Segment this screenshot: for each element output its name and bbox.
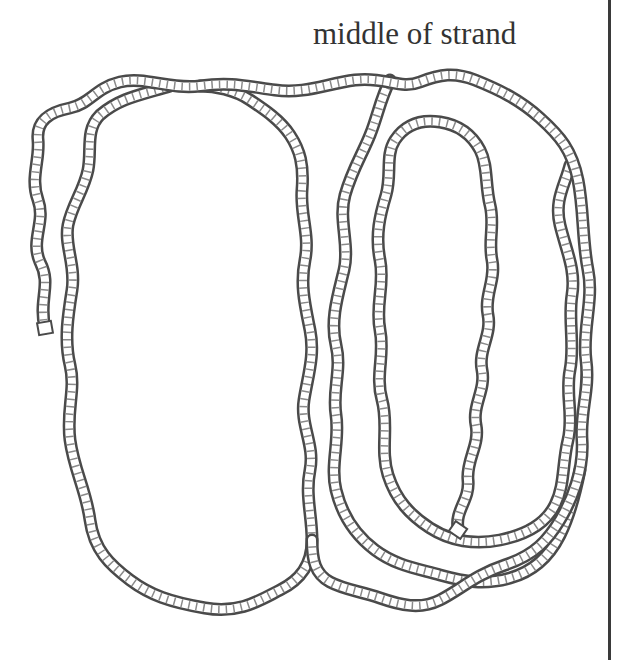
rope-free-end-left [37, 321, 53, 335]
rope-illustration [0, 0, 618, 660]
rope-left-loop [67, 86, 312, 609]
rope-inner-right-loop [378, 121, 573, 542]
